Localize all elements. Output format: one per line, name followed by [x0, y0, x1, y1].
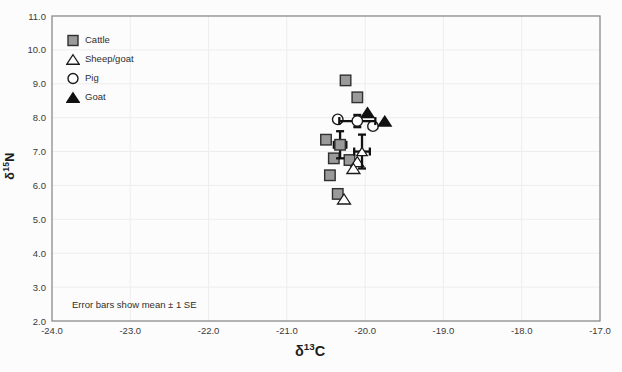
legend-item-cattle: Cattle — [66, 30, 134, 49]
y-axis-title-delta: δ — [3, 172, 17, 180]
plot-border — [52, 16, 600, 321]
legend-item-sheep-goat: Sheep/goat — [66, 49, 134, 68]
y-tick-label: 3.0 — [33, 282, 46, 293]
legend-marker-goat — [67, 92, 79, 102]
data-point-cattle — [352, 92, 363, 103]
y-axis-title-superscript: 15 — [1, 162, 11, 172]
error-bar-note: Error bars show mean ± 1 SE — [72, 299, 197, 310]
x-tick-label: -18.0 — [511, 325, 533, 336]
legend-label-cattle: Cattle — [85, 34, 110, 45]
y-axis-title: δ15N — [1, 131, 17, 201]
legend-label-pig: Pig — [85, 72, 99, 83]
x-tick-label: -22.0 — [198, 325, 220, 336]
y-tick-label: 5.0 — [33, 214, 46, 225]
y-tick-label: 11.0 — [28, 11, 46, 22]
y-tick-label: 10.0 — [28, 44, 47, 55]
y-tick-label: 7.0 — [33, 146, 46, 157]
y-tick-label: 8.0 — [33, 112, 46, 123]
legend-item-pig: Pig — [66, 68, 134, 87]
data-point-goat — [361, 108, 374, 118]
data-point-pig — [332, 114, 343, 125]
legend-marker-pig-icon — [66, 71, 80, 85]
mean-marker-cattle — [335, 140, 346, 151]
x-tick-label: -23.0 — [119, 325, 141, 336]
x-tick-label: -21.0 — [276, 325, 298, 336]
x-tick-label: -20.0 — [354, 325, 376, 336]
legend-marker-cattle — [68, 35, 78, 45]
chart-figure: 11.010.09.08.07.06.05.04.03.02.0-24.0-23… — [0, 0, 622, 372]
legend-marker-goat-icon — [66, 90, 80, 104]
data-points — [321, 75, 391, 204]
x-axis-title: δ13C — [260, 341, 360, 359]
legend-item-goat: Goat — [66, 87, 134, 106]
legend-label-sheep-goat: Sheep/goat — [85, 53, 134, 64]
x-tick-label: -17.0 — [589, 325, 611, 336]
data-point-cattle — [321, 134, 332, 145]
y-tick-label: 4.0 — [33, 248, 46, 259]
x-axis-title-delta: δ — [295, 343, 304, 359]
y-tick-label: 6.0 — [33, 180, 46, 191]
legend-marker-sheep-goat-icon — [66, 52, 80, 66]
x-tick-label: -19.0 — [433, 325, 455, 336]
x-axis-title-element: C — [315, 343, 325, 359]
y-axis-title-element: N — [3, 152, 17, 161]
x-tick-label: -24.0 — [41, 325, 63, 336]
data-point-cattle — [340, 75, 351, 86]
data-point-pig — [368, 121, 379, 132]
legend-marker-sheep-goat — [67, 54, 79, 64]
gridlines — [52, 16, 600, 321]
legend-marker-pig — [68, 73, 78, 83]
x-axis-title-superscript: 13 — [304, 341, 315, 352]
data-point-cattle — [325, 170, 336, 181]
y-tick-label: 9.0 — [33, 78, 46, 89]
mean-marker-pig — [352, 116, 363, 127]
legend-label-goat: Goat — [85, 91, 106, 102]
legend-marker-cattle-icon — [66, 33, 80, 47]
legend: CattleSheep/goatPigGoat — [66, 30, 134, 106]
